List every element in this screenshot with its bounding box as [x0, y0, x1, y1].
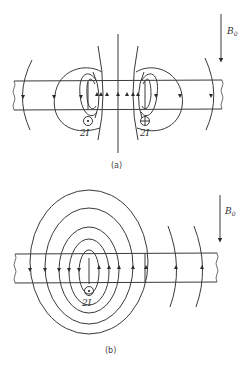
- field-line-diagram: 2I 2I B0 (a): [0, 0, 250, 367]
- current-label-left: 2I: [79, 128, 90, 138]
- current-out-of-page-symbol: [84, 117, 93, 126]
- field-label-a: B0: [226, 26, 238, 37]
- caption-a: (a): [111, 161, 122, 170]
- caption-b: (b): [105, 346, 116, 355]
- field-loops-left: [54, 46, 103, 140]
- field-loops-right: [133, 46, 182, 140]
- field-direction-arrows-a: [21, 92, 213, 99]
- panel-a: 2I 2I B0 (a): [13, 14, 238, 170]
- panel-b: 2I B0 (b): [14, 190, 236, 355]
- field-direction-arrows-b: [28, 265, 204, 272]
- current-into-page-symbol: [141, 117, 150, 126]
- current-label-b: 2I: [81, 298, 92, 308]
- current-label-right: 2I: [139, 128, 150, 138]
- field-label-b: B0: [224, 206, 236, 217]
